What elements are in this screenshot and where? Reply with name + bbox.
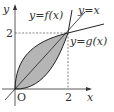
origin-label: O: [17, 91, 26, 104]
function-graph: y x O 2 2 y=f(x) y=x y=g(x): [0, 0, 114, 112]
x-axis-label: x: [87, 91, 94, 104]
y-axis-label: y: [2, 3, 10, 16]
x-tick-2: 2: [65, 91, 72, 104]
curve-g-label: y=g(x): [69, 35, 107, 48]
line-y-equals-x: [5, 12, 85, 100]
y-axis-arrow-icon: [13, 4, 17, 10]
line-y-equals-x-label: y=x: [77, 4, 100, 17]
curve-f-label: y=f(x): [28, 9, 63, 22]
y-tick-2: 2: [6, 27, 13, 40]
